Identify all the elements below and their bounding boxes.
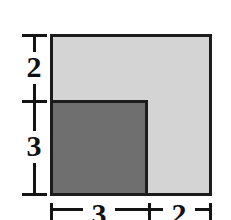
vertical-tick-bottom [22,193,47,196]
dimension-label-horizontal-left: 3 [83,199,115,220]
dimension-label-horizontal-right: 2 [163,199,195,220]
geometry-figure: 2 3 3 2 [0,0,231,220]
horizontal-tick-left [50,203,53,220]
inner-dark-square [50,100,148,196]
vertical-tick-middle [22,100,47,103]
horizontal-tick-right [209,203,212,220]
dimension-label-vertical-bottom: 3 [18,131,50,163]
vertical-tick-top [22,34,47,37]
horizontal-tick-middle [148,203,151,220]
dimension-label-vertical-top: 2 [18,52,50,84]
